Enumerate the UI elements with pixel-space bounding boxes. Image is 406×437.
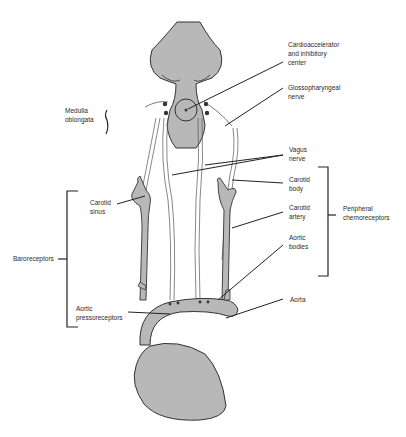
label-aorta: Aorta <box>290 295 306 304</box>
label-medulla-oblongata: Medulla oblongata <box>65 106 94 124</box>
heart-shape <box>134 343 226 420</box>
label-aortic-pressoreceptors: Aortic pressoreceptors <box>76 304 123 322</box>
label-carotid-body: Carotid body <box>289 175 310 193</box>
right-carotid <box>217 178 236 300</box>
left-carotid <box>132 176 151 300</box>
label-cardio-center: Cardioaccelerator and inhibitory center <box>288 40 339 67</box>
aortic-arch <box>140 298 238 345</box>
brainstem-shape <box>150 22 222 148</box>
label-glossopharyngeal-nerve: Glossopharyngeal nerve <box>288 83 340 101</box>
label-baroreceptors: Baroreceptors <box>13 254 54 263</box>
label-vagus-nerve: Vagus nerve <box>289 145 307 163</box>
label-carotid-sinus: Carotid sinus <box>90 198 111 216</box>
label-carotid-artery: Carotid artery <box>289 203 310 221</box>
label-aortic-bodies: Aortic bodies <box>289 233 308 251</box>
label-peripheral-chemoreceptors: Peripheral chemoreceptors <box>343 204 390 222</box>
